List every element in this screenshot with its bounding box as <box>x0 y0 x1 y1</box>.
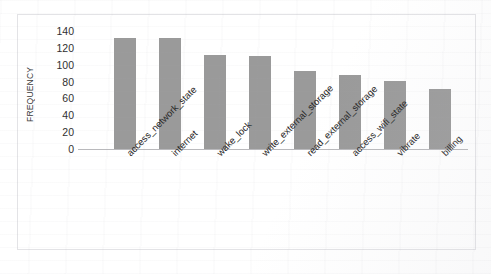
y-tick-label: 120 <box>40 43 74 54</box>
chart-figure: FREQUENCY 020406080100120140 access_netw… <box>17 14 476 250</box>
y-tick-label: 40 <box>40 110 74 121</box>
y-axis-title: FREQUENCY <box>23 51 37 137</box>
bar <box>159 38 181 149</box>
bar <box>114 38 136 149</box>
y-axis-tick-labels: 020406080100120140 <box>40 31 74 149</box>
x-axis-tick-labels: access_network_stateinternetwake_lockwri… <box>18 151 477 247</box>
y-tick-label: 100 <box>40 59 74 70</box>
bars-container <box>78 31 460 149</box>
y-tick-label: 140 <box>40 26 74 37</box>
bar <box>204 55 226 149</box>
y-tick-label: 80 <box>40 76 74 87</box>
y-tick-label: 20 <box>40 127 74 138</box>
plot-area: FREQUENCY 020406080100120140 access_netw… <box>18 15 475 249</box>
y-tick-label: 60 <box>40 93 74 104</box>
bar <box>249 56 271 149</box>
